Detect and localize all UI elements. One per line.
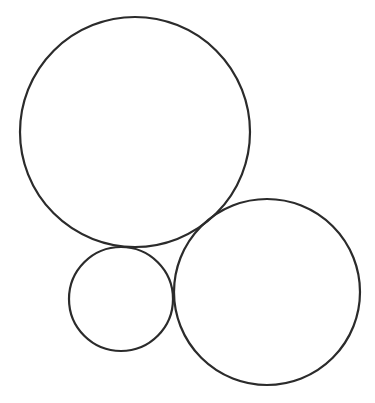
tangent-circles-diagram	[0, 0, 375, 403]
large-circle	[20, 17, 250, 247]
medium-circle	[174, 199, 360, 385]
small-circle	[69, 247, 173, 351]
